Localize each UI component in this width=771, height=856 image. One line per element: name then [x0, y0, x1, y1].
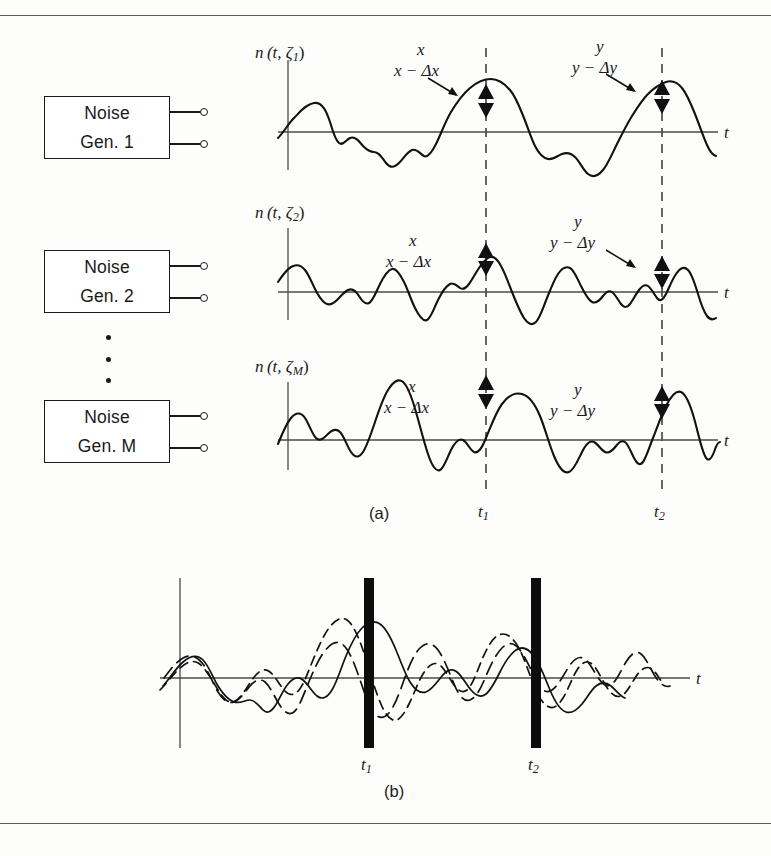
panel-b-bar-t1	[364, 578, 374, 748]
signal-label-row-3-suffix: )	[303, 357, 309, 376]
signal-label-row-2-suffix: )	[299, 203, 305, 222]
row-3-label-x-bottom: x − Δx	[384, 399, 429, 416]
row-1-label-y-top: y	[596, 38, 604, 55]
panel-b-trace-dashed-2	[164, 642, 670, 717]
row-1-label-x-top: x	[417, 41, 425, 58]
signal-label-row-2: n (t, ζ2)	[255, 204, 304, 224]
row-1-marker-y-lower	[654, 99, 670, 114]
row-2-marker-x-lower	[478, 261, 494, 276]
row-3-label-x-top: x	[408, 378, 416, 395]
row-1-label-x-bottom: x − Δx	[394, 62, 439, 79]
panel-b-time-mark-t1: t1	[361, 756, 372, 776]
row-2-marker-y-lower	[654, 274, 670, 289]
panel-a-caption: (a)	[369, 505, 389, 522]
row-3-marker-x-lower	[478, 394, 494, 409]
panel-b-trace-solid	[163, 622, 625, 713]
panel-b-caption: (b)	[384, 783, 404, 800]
row-1-marker-x-lower	[478, 103, 494, 118]
row-2-waveform	[278, 257, 716, 324]
panel-a-t2-sub: 2	[659, 509, 665, 523]
row-1-marker-x-upper	[478, 84, 494, 99]
row-2-axis-label-t: t	[724, 284, 729, 301]
row-2-label-x-top: x	[409, 232, 417, 249]
panel-a-plot-canvas	[0, 0, 771, 856]
waveform-row-2	[278, 228, 718, 324]
panel-a-time-mark-t1: t1	[478, 503, 489, 523]
row-2-label-y-bottom: y − Δy	[550, 234, 595, 251]
panel-b-t2-sub: 2	[533, 762, 539, 776]
row-3-label-y-bottom: y − Δy	[550, 402, 595, 419]
panel-b-axis-label-t: t	[696, 670, 701, 687]
signal-label-row-3-index: M	[293, 364, 303, 378]
row-1-arrowhead-y	[626, 83, 636, 92]
row-1-label-y-bottom: y − Δy	[572, 59, 617, 76]
figure-root: Noise Gen. 1 Noise Gen. 2 Noise Gen. M	[0, 0, 771, 856]
row-2-label-y-top: y	[574, 213, 582, 230]
row-3-marker-y-upper	[654, 386, 670, 401]
panel-b-bar-t2	[531, 578, 541, 748]
row-1-axis-label-t: t	[724, 124, 729, 141]
row-3-label-y-top: y	[574, 381, 582, 398]
row-2-marker-y-upper	[654, 256, 670, 271]
row-3-marker-x-upper	[478, 375, 494, 390]
signal-label-row-1: n (t, ζ1)	[255, 44, 304, 64]
row-2-label-x-bottom: x − Δx	[386, 253, 431, 270]
row-2-marker-x-upper	[478, 243, 494, 258]
signal-label-row-2-prefix: n (t, ζ	[255, 203, 293, 222]
signal-label-row-1-prefix: n (t, ζ	[255, 43, 293, 62]
row-3-marker-y-lower	[654, 404, 670, 419]
row-2-arrowhead-y	[626, 259, 636, 268]
signal-label-row-3-prefix: n (t, ζ	[255, 357, 293, 376]
row-3-axis-label-t: t	[724, 432, 729, 449]
row-1-waveform	[278, 79, 716, 176]
panel-b-t1-sub: 1	[366, 762, 372, 776]
signal-label-row-3: n (t, ζM)	[255, 358, 309, 378]
panel-b-trace-dashed-1	[160, 618, 663, 720]
waveform-row-1	[278, 60, 718, 176]
row-3-waveform	[278, 380, 720, 472]
panel-a-t1-sub: 1	[483, 509, 489, 523]
row-1-arrowhead-x	[448, 87, 458, 96]
panel-a-time-mark-t2: t2	[654, 503, 665, 523]
panel-b-time-mark-t2: t2	[528, 756, 539, 776]
signal-label-row-1-suffix: )	[299, 43, 305, 62]
waveform-row-3	[278, 375, 720, 472]
panel-b-plot	[160, 578, 690, 748]
